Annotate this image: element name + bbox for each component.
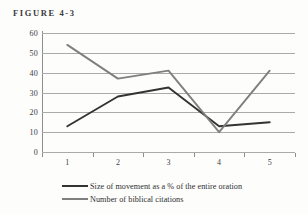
x-axis-tick-label: 2 — [116, 158, 120, 167]
legend-item: Number of biblical citations — [62, 193, 302, 205]
x-axis-tick-mark — [93, 153, 94, 157]
gridline — [42, 132, 295, 133]
y-axis-tick-label: 10 — [29, 128, 38, 137]
x-axis-tick-label: 1 — [65, 158, 69, 167]
x-axis-tick-label: 4 — [217, 158, 221, 167]
gridline — [42, 33, 295, 34]
gridline — [42, 152, 295, 153]
legend-item-label: Size of movement as a % of the entire or… — [90, 182, 242, 191]
gridline — [42, 112, 295, 113]
x-axis-tick-mark — [42, 153, 43, 157]
x-axis-tick-mark — [295, 153, 296, 157]
gridline — [42, 73, 295, 74]
y-axis-tick-label: 40 — [29, 68, 38, 77]
y-axis-tick-label: 20 — [29, 108, 38, 117]
gridline — [42, 53, 295, 54]
x-axis-tick-label: 5 — [268, 158, 272, 167]
legend-line-swatch — [62, 198, 88, 200]
y-axis-tick-label: 50 — [29, 48, 38, 57]
legend-item-label: Number of biblical citations — [90, 195, 184, 204]
x-axis-tick-label: 3 — [167, 158, 171, 167]
chart-legend: Size of movement as a % of the entire or… — [62, 180, 302, 206]
y-axis-tick-label: 0 — [34, 148, 38, 157]
legend-item: Size of movement as a % of the entire or… — [62, 180, 302, 192]
y-axis-tick-label: 60 — [29, 29, 38, 38]
figure-container: FIGURE 4-3 0102030405060 12345 Size of m… — [0, 0, 308, 214]
plot-area — [42, 33, 295, 152]
x-axis-tick-mark — [194, 153, 195, 157]
gridline — [42, 93, 295, 94]
legend-line-swatch — [62, 185, 88, 187]
x-axis-tick-mark — [244, 153, 245, 157]
x-axis-tick-mark — [143, 153, 144, 157]
y-axis-tick-label: 30 — [29, 88, 38, 97]
figure-caption: FIGURE 4-3 — [13, 8, 76, 18]
